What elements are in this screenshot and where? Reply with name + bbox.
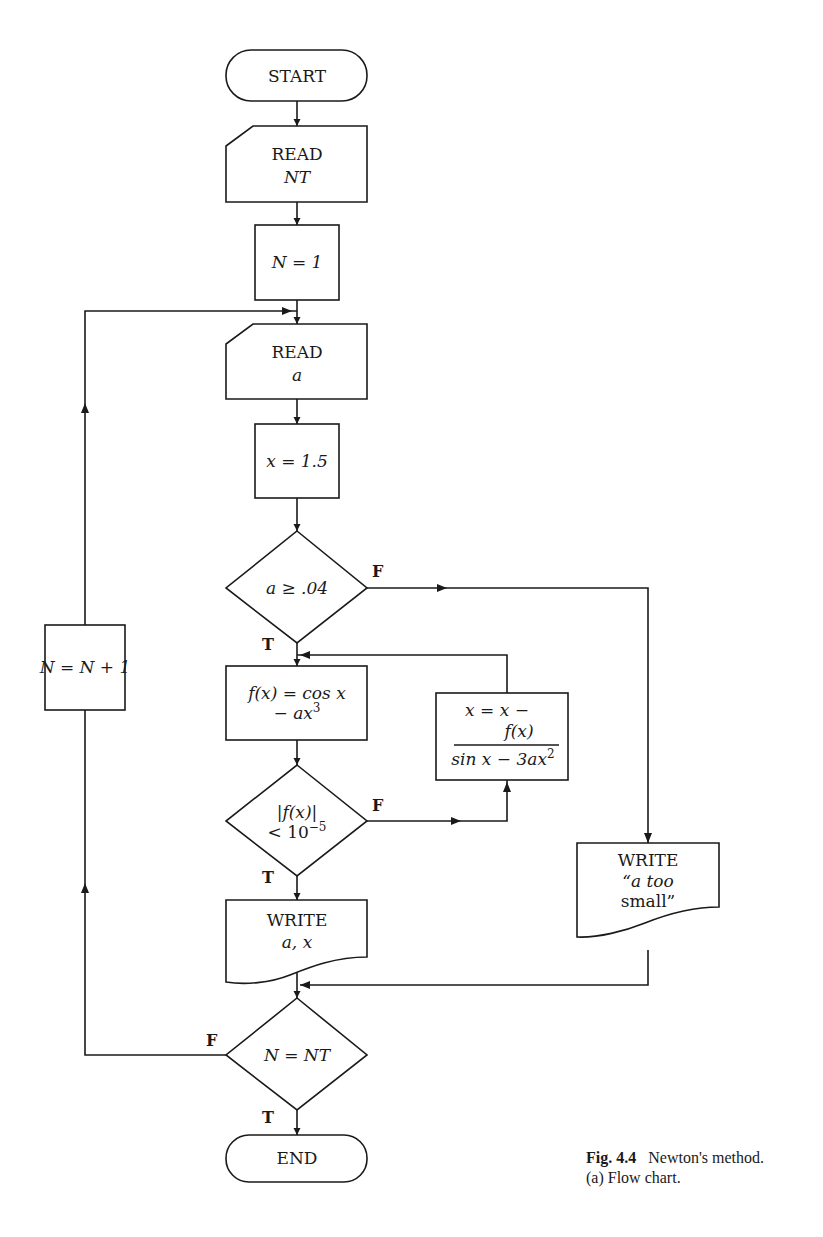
update-x-denominator: sin x − 3ax2: [451, 747, 554, 769]
arrowhead-loop-inner: [300, 651, 310, 659]
edge-checkconv-updatex: [367, 780, 507, 821]
connectors: [81, 101, 652, 1135]
arrowhead-outer-up: [81, 403, 89, 413]
check-a-false-label: F: [372, 562, 384, 581]
read-a-line2: a: [292, 365, 302, 385]
read-a-line1: READ: [271, 342, 322, 362]
read-nt-line2: NT: [283, 167, 312, 187]
node-read-nt: READ NT: [226, 126, 367, 202]
arrowhead-writesmall-in: [644, 833, 652, 843]
read-nt-line1: READ: [271, 144, 322, 164]
caption-line1: Fig. 4.4 Newton's method.: [586, 1148, 764, 1168]
write-small-line2: “a too: [622, 871, 674, 891]
node-inc-n: N = N + 1: [39, 625, 131, 710]
check-n-true-label: T: [262, 1108, 274, 1127]
node-check-n: N = NT F T: [206, 998, 367, 1127]
node-check-a: a ≥ .04 F T: [226, 531, 384, 654]
start-label: START: [268, 66, 327, 86]
update-x-numerator: f(x): [502, 721, 533, 741]
node-write-small: WRITE “a too small”: [577, 843, 719, 937]
write-ax-line2: a, x: [282, 932, 313, 952]
update-x-line1: x = x −: [465, 700, 529, 720]
arrowhead-merge: [300, 981, 310, 989]
caption-title: Newton's method.: [648, 1149, 764, 1166]
node-compute-f: f(x) = cos x − ax3: [226, 666, 367, 740]
check-conv-line1: |f(x)|: [277, 802, 318, 822]
init-x-label: x = 1.5: [266, 451, 328, 471]
edge-checkn-incn: [85, 710, 226, 1055]
compute-f-line1: f(x) = cos x: [246, 683, 346, 703]
node-start: START: [226, 50, 367, 101]
arrowhead-checkconv-f: [451, 817, 461, 825]
write-ax-line1: WRITE: [267, 910, 328, 930]
node-check-conv: |f(x)| < 10−5 F T: [226, 765, 384, 887]
node-write-ax: WRITE a, x: [226, 900, 367, 983]
node-init-n: N = 1: [255, 225, 339, 300]
inc-n-label: N = N + 1: [39, 657, 131, 677]
caption-sub: (a) Flow chart.: [586, 1168, 764, 1188]
check-a-true-label: T: [262, 635, 274, 654]
arrowhead-outer-right: [282, 307, 292, 315]
arrowhead-incn-in: [81, 883, 89, 893]
arrowhead-updatex-in: [503, 782, 511, 792]
check-a-label: a ≥ .04: [266, 578, 328, 598]
end-label: END: [277, 1148, 318, 1168]
node-read-a: READ a: [226, 324, 367, 399]
arrowhead-checka-f: [437, 584, 447, 592]
node-update-x: x = x − f(x) sin x − 3ax2: [436, 693, 568, 780]
init-n-label: N = 1: [271, 252, 323, 272]
write-small-line3: small”: [621, 891, 676, 911]
node-end: END: [226, 1135, 367, 1182]
node-init-x: x = 1.5: [255, 424, 339, 498]
check-conv-false-label: F: [372, 796, 384, 815]
check-n-label: N = NT: [263, 1045, 332, 1065]
input-card-shape: [226, 126, 367, 202]
newton-method-flowchart: START READ NT N = 1 READ a x = 1.5 a ≥ .…: [0, 0, 823, 1237]
check-conv-true-label: T: [262, 868, 274, 887]
check-n-false-label: F: [206, 1031, 218, 1050]
write-small-line1: WRITE: [618, 850, 679, 870]
caption-number: Fig. 4.4: [586, 1149, 636, 1166]
figure-caption: Fig. 4.4 Newton's method. (a) Flow chart…: [586, 1148, 764, 1188]
